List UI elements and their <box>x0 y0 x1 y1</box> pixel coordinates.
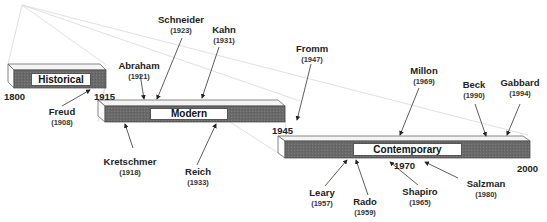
figure-freud: Freud (1908) <box>44 107 80 126</box>
figure-kretschmer: Kretschmer (1918) <box>98 157 162 176</box>
figure-reich: Reich (1933) <box>180 167 216 186</box>
figure-beck: Beck (1990) <box>458 80 490 99</box>
figure-rado: Rado (1959) <box>348 197 382 216</box>
figure-shapiro: Shapiro (1965) <box>398 187 442 206</box>
tick-1945: 1945 <box>272 125 293 136</box>
figure-gabbard: Gabbard (1994) <box>497 78 543 97</box>
timeline-diagram: Historical Modern Contemporary 1800 1915… <box>0 0 547 222</box>
tick-1970: 1970 <box>394 160 415 171</box>
figure-schneider: Schneider (1923) <box>154 15 208 34</box>
figure-leary: Leary (1957) <box>304 188 340 207</box>
figure-kahn: Kahn (1931) <box>206 25 242 44</box>
period-label-modern: Modern <box>150 108 228 120</box>
figure-fromm: Fromm (1947) <box>292 44 332 63</box>
figure-salzman: Salzman (1980) <box>462 179 510 198</box>
figure-millon: Millon (1969) <box>406 66 442 85</box>
period-label-contemporary: Contemporary <box>353 143 462 156</box>
period-label-historical: Historical <box>31 73 91 86</box>
tick-2000: 2000 <box>517 163 538 174</box>
figure-abraham: Abraham (1921) <box>113 61 165 80</box>
tick-1800: 1800 <box>4 91 25 102</box>
tick-1915: 1915 <box>94 91 115 102</box>
